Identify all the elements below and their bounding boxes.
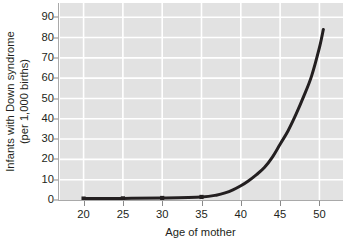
y-tick-label-20: 20 [32,154,54,165]
y-tick-label-0: 0 [32,194,54,205]
x-tick-mark-40 [241,201,242,206]
data-line-series-1 [84,29,324,198]
x-tick-label-45: 45 [263,208,297,220]
y-tick-label-10: 10 [32,174,54,185]
x-tick-mark-45 [280,201,281,206]
x-tick-mark-25 [123,201,124,206]
x-tick-label-50: 50 [302,208,336,220]
y-tick-label-30: 30 [32,133,54,144]
y-axis-tick-labels: 0102030405060708090 [32,0,54,203]
x-tick-label-30: 30 [145,208,179,220]
data-marker-age-30 [160,196,164,200]
x-tick-mark-20 [84,201,85,206]
x-tick-label-35: 35 [185,208,219,220]
x-tick-mark-30 [162,201,163,206]
data-marker-age-25 [121,196,125,200]
plot-svg [60,3,343,200]
y-tick-label-60: 60 [32,72,54,83]
y-tick-label-70: 70 [32,52,54,63]
y-tick-label-50: 50 [32,93,54,104]
y-axis-title-line-1: Infants with Down syndrome [4,31,18,172]
y-tick-label-90: 90 [32,12,54,23]
y-axis-title-line-2: (per 1,000 births) [17,31,31,172]
chart-figure: Infants with Down syndrome (per 1,000 bi… [0,0,343,243]
x-tick-label-40: 40 [224,208,258,220]
y-axis-title: Infants with Down syndrome (per 1,000 bi… [0,0,34,203]
data-marker-age-20 [81,196,85,200]
x-tick-mark-35 [202,201,203,206]
x-tick-mark-50 [319,201,320,206]
x-tick-label-25: 25 [106,208,140,220]
x-axis-title: Age of mother [58,226,343,239]
y-tick-label-80: 80 [32,32,54,43]
vertical-gridlines [84,3,320,200]
y-axis-title-text: Infants with Down syndrome (per 1,000 bi… [4,31,31,172]
y-tick-label-40: 40 [32,113,54,124]
plot-area [60,3,343,200]
data-marker-age-35 [199,195,203,199]
x-tick-label-20: 20 [67,208,101,220]
x-axis-line [58,200,343,201]
